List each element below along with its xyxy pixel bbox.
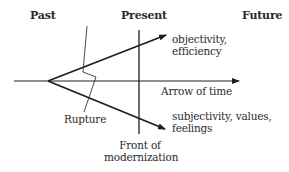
header-past: Past — [30, 10, 56, 22]
label-lower-branch: subjectivity, values, feelings — [172, 110, 272, 134]
label-arrow-of-time: Arrow of time — [161, 85, 232, 97]
upper-branch-arrow — [48, 35, 166, 81]
diagram-canvas: Past Present Future objectivity, efficie… — [0, 0, 289, 172]
label-rupture: Rupture — [64, 113, 106, 125]
label-front-of-modernization: Front of modernization — [104, 139, 176, 163]
header-future: Future — [242, 10, 282, 22]
label-upper-branch: objectivity, efficiency — [172, 33, 227, 57]
header-present: Present — [121, 10, 167, 22]
